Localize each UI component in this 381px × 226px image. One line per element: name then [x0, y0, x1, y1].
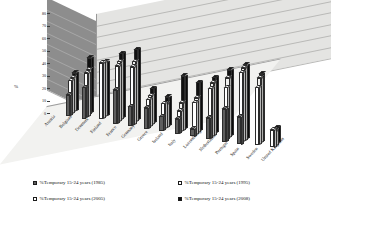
bar-side-face: [200, 81, 203, 131]
bar-front-face: [222, 109, 226, 142]
bar: [222, 109, 226, 142]
legend-item[interactable]: %Temporary 15-24 years (1995): [178, 180, 250, 186]
bar-side-face: [226, 108, 229, 142]
bar-front-face: [175, 119, 179, 134]
legend-swatch: [33, 181, 37, 185]
legend-label: %Temporary 15-24 years (2005): [40, 196, 105, 202]
bar-side-face: [241, 116, 244, 145]
x-axis-label: France: [105, 124, 117, 137]
bar-front-face: [144, 108, 148, 129]
bar: [128, 106, 132, 126]
bar: [206, 118, 210, 139]
legend-label: %Temporary 15-24 years (1985): [40, 180, 105, 186]
bar-side-face: [117, 89, 120, 124]
bar: [190, 129, 194, 137]
bar-side-face: [196, 101, 199, 135]
bar-front-face: [270, 130, 274, 148]
bar-side-face: [132, 105, 135, 126]
bar: [82, 87, 86, 118]
bar-side-face: [70, 94, 73, 116]
x-axis-label: Belgium: [58, 114, 72, 129]
legend-label: %Temporary 15-24 years (2008): [185, 196, 250, 202]
bar-side-face: [148, 106, 151, 128]
bar-side-face: [163, 115, 166, 131]
x-axis-label: Spain: [229, 146, 240, 157]
bar-front-face: [255, 87, 259, 145]
bar: [175, 119, 179, 134]
bar-side-face: [179, 118, 182, 134]
bar: [237, 117, 241, 145]
legend-label: %Temporary 15-24 years (1995): [185, 180, 250, 186]
x-axis-label: Sweden: [245, 146, 259, 160]
bar: [144, 108, 148, 129]
bar-side-face: [259, 86, 262, 145]
bar-side-face: [167, 103, 170, 128]
x-axis-label: Portugal: [214, 140, 228, 155]
legend-item[interactable]: %Temporary 15-24 years (1985): [33, 180, 105, 186]
bar-side-face: [103, 62, 106, 119]
legend-swatch: [33, 197, 37, 201]
bar: [270, 130, 274, 148]
bar-front-face: [99, 63, 103, 119]
bar-side-face: [231, 69, 234, 136]
bar: [66, 95, 70, 116]
bar-front-face: [82, 87, 86, 118]
bar: [99, 63, 103, 119]
x-axis-label: Austria: [43, 113, 56, 126]
bar-front-face: [190, 129, 194, 137]
bar-front-face: [206, 118, 210, 139]
bar: [255, 87, 259, 145]
bar: [113, 90, 117, 124]
bar-side-face: [274, 129, 277, 148]
bar-side-face: [198, 97, 201, 133]
bar-side-face: [210, 117, 213, 139]
bar-front-face: [237, 117, 241, 145]
bar-front-face: [66, 95, 70, 116]
legend-item[interactable]: %Temporary 15-24 years (2008): [178, 196, 250, 202]
x-axis-label: Finland: [89, 121, 102, 135]
bar-front-face: [128, 106, 132, 126]
chart-legend: %Temporary 15-24 years (1985)%Temporary …: [33, 180, 353, 214]
bar-chart: 01020304050607080 % AustriaBelgiumDenmar…: [0, 0, 381, 226]
bar-side-face: [165, 102, 168, 129]
bar-side-face: [86, 86, 89, 118]
legend-swatch: [178, 197, 182, 201]
x-axis-label: Ireland: [152, 132, 165, 145]
bar-front-face: [159, 116, 163, 131]
x-axis-label: Italy: [167, 138, 176, 148]
x-axis-label: Greece: [136, 129, 149, 142]
legend-swatch: [178, 181, 182, 185]
legend-item[interactable]: %Temporary 15-24 years (2005): [33, 196, 105, 202]
bar: [159, 116, 163, 131]
bar-front-face: [113, 90, 117, 124]
